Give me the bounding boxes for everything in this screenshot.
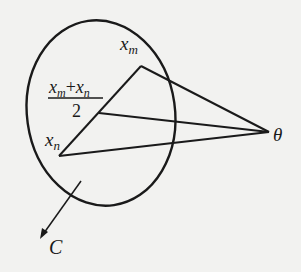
line-xn-theta — [59, 132, 269, 156]
line-xm-theta — [141, 66, 269, 132]
label-xm: xm — [119, 33, 138, 57]
label-set-c: C — [49, 236, 63, 258]
label-xn: xn — [44, 129, 60, 153]
label-midpoint-numerator: xm+xn — [48, 77, 90, 100]
label-midpoint-denominator: 2 — [72, 101, 81, 121]
label-theta: θ — [273, 124, 282, 145]
diagram-canvas: xm xm+xn 2 xn θ C — [0, 0, 301, 272]
line-mid-theta — [99, 113, 269, 132]
